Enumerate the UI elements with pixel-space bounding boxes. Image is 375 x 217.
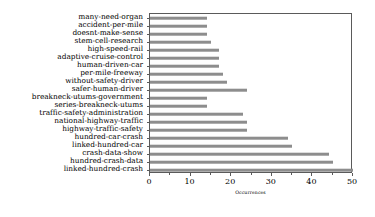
x-axis-tick-label: 10 [185, 177, 195, 186]
bar [150, 41, 211, 44]
x-axis-tick [149, 173, 150, 176]
x-axis-tick-label: 30 [266, 177, 276, 186]
y-axis-tick [147, 42, 150, 43]
bar [150, 57, 219, 60]
bar [150, 89, 247, 92]
y-axis-tick [147, 58, 150, 59]
y-axis-tick [147, 170, 150, 171]
y-axis-tick [147, 146, 150, 147]
bar [150, 161, 333, 164]
y-axis-tick [147, 34, 150, 35]
x-axis-tick-label: 0 [146, 177, 151, 186]
x-axis-tick-label: 50 [347, 177, 357, 186]
y-axis-tick [147, 66, 150, 67]
y-axis-tick [147, 122, 150, 123]
y-axis-tick [147, 18, 150, 19]
x-axis-tick [190, 173, 191, 176]
x-axis-tick-label: 40 [306, 177, 316, 186]
bars-layer [150, 14, 351, 172]
plot-area: Reddit Data Twitter Data [149, 13, 352, 173]
bar [150, 105, 207, 108]
x-axis-minor-tick [210, 173, 211, 175]
bar [150, 65, 219, 68]
y-axis-tick [147, 114, 150, 115]
bar [150, 97, 207, 100]
x-axis-minor-tick [332, 173, 333, 175]
x-axis: Occurrences 01020304050 [149, 173, 352, 203]
x-axis-tick [352, 173, 353, 176]
bar [150, 169, 353, 172]
x-axis-minor-tick [169, 173, 170, 175]
x-axis-minor-tick [291, 173, 292, 175]
x-axis-tick [311, 173, 312, 176]
bar [150, 113, 243, 116]
bar [150, 25, 207, 28]
y-axis-tick [147, 130, 150, 131]
y-axis-tick [147, 26, 150, 27]
y-axis-tick [147, 74, 150, 75]
y-axis-tick [147, 98, 150, 99]
bar [150, 153, 329, 156]
y-axis-tick-label: linked-hundred-crash [64, 165, 143, 173]
bar-chart-figure: many-need-organaccident-per-miledoesnt-m… [0, 0, 375, 217]
bar [150, 17, 207, 20]
y-axis-tick [147, 50, 150, 51]
y-axis-tick [147, 82, 150, 83]
x-axis-minor-tick [251, 173, 252, 175]
x-axis-tick [271, 173, 272, 176]
x-axis-title: Occurrences [149, 190, 352, 195]
bar [150, 129, 247, 132]
y-axis-tick [147, 138, 150, 139]
x-axis-tick-label: 20 [225, 177, 235, 186]
x-axis-tick [230, 173, 231, 176]
bar [150, 137, 288, 140]
y-axis-tick [147, 154, 150, 155]
y-axis-tick [147, 106, 150, 107]
bar [150, 121, 247, 124]
y-axis-tick [147, 90, 150, 91]
bar [150, 33, 207, 36]
y-axis-labels: many-need-organaccident-per-miledoesnt-m… [0, 13, 146, 173]
bar [150, 73, 223, 76]
y-axis-tick [147, 162, 150, 163]
bar [150, 145, 292, 148]
bar [150, 81, 227, 84]
bar [150, 49, 219, 52]
